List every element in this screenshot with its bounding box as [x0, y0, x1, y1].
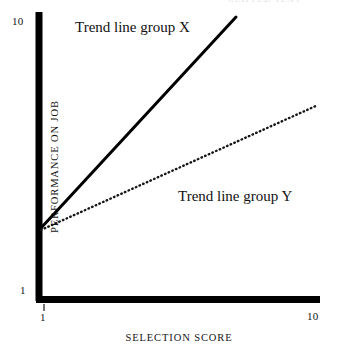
x-axis-tick-label-right: 10 — [307, 311, 318, 322]
trend-line-group-y — [41, 105, 318, 230]
series-label-group-y: Trend line group Y — [178, 189, 292, 204]
x-axis-tick-label-left: 1 — [40, 312, 46, 323]
y-axis-tick-label-bottom: 1 — [20, 285, 26, 296]
y-axis-title: PERFORMANCE ON JOB — [49, 72, 60, 262]
series-label-group-x: Trend line group X — [75, 20, 190, 35]
x-axis-title: SELECTION SCORE — [38, 332, 320, 343]
y-axis-tick-label-top: 10 — [12, 16, 23, 27]
clipped-header-text: CLIPPED TEXT — [228, 0, 302, 4]
trend-line-chart: CLIPPED TEXT 10 1 1 10 PERFORMANCE ON JO… — [0, 0, 342, 353]
